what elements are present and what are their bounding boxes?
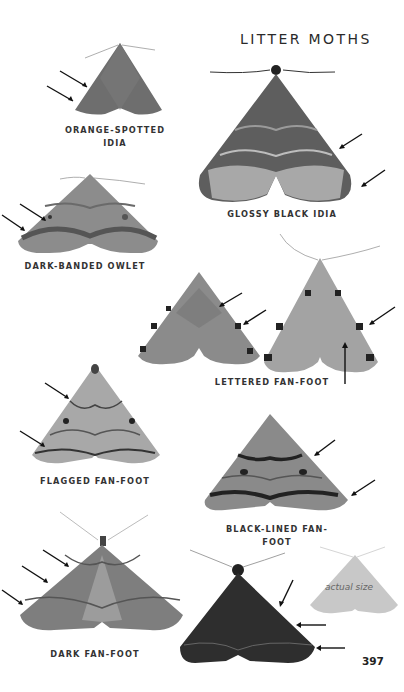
flagged-fan-foot-image <box>10 363 165 473</box>
actual-size-label: actual size <box>325 582 373 592</box>
species-name-line2: IDIA <box>60 137 170 150</box>
arrow-icon <box>352 480 375 495</box>
species-label: DARK-BANDED OWLET <box>20 260 150 273</box>
arrow-icon <box>43 550 68 566</box>
field-guide-page: LITTER MOTHS ORANGE-SPOTTED IDIA GLOSSY … <box>0 0 404 692</box>
species-label: FLAGGED FAN-FOOT <box>40 475 150 488</box>
species-label: DARK FAN-FOOT <box>40 648 150 661</box>
orange-spotted-idia-image <box>30 38 170 120</box>
glossy-black-idia-image <box>190 60 400 210</box>
arrow-icon <box>2 215 24 230</box>
arrow-icon <box>45 383 68 398</box>
arrow-icon <box>281 580 293 605</box>
species-label: LETTERED FAN-FOOT <box>207 376 337 389</box>
lettered-fan-foot-image-right <box>260 232 404 387</box>
black-lined-fan-foot-image <box>200 410 400 520</box>
arrow-icon <box>362 170 385 186</box>
dark-banded-owlet-image <box>0 166 165 256</box>
arrow-icon <box>20 431 44 446</box>
arrow-icon <box>2 590 22 604</box>
page-title: LITTER MOTHS <box>240 31 372 47</box>
dark-fan-foot-image <box>0 510 190 640</box>
page-number: 397 <box>362 655 384 667</box>
lettered-fan-foot-image-left <box>132 268 267 373</box>
arrow-icon <box>22 566 47 582</box>
species-label: ORANGE-SPOTTED IDIA <box>60 124 170 150</box>
arrow-icon <box>60 71 87 87</box>
arrow-icon <box>20 204 45 220</box>
arrow-icon <box>370 307 395 324</box>
species-name-line1: ORANGE-SPOTTED <box>60 124 170 137</box>
species-label: GLOSSY BLACK IDIA <box>222 208 342 221</box>
